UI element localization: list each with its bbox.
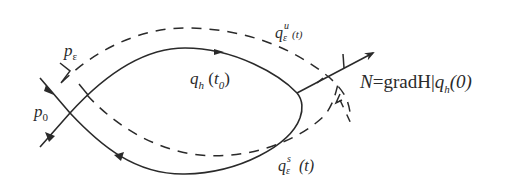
label-normal-q: q	[435, 71, 445, 92]
label-qu-arg: (t)	[292, 28, 302, 40]
label-normal-N: N	[360, 71, 373, 92]
label-qu-sub: ε	[283, 33, 287, 43]
label-q-h-t0: qh (t0)	[190, 70, 230, 87]
label-qh-t: t	[214, 69, 219, 88]
label-p0-sub: 0	[43, 111, 49, 123]
stable-manifold-dashed	[87, 84, 338, 156]
label-qs-sup: s	[287, 154, 291, 164]
arrow-icon-p0-in	[44, 85, 54, 95]
unstable-manifold-tail	[340, 100, 353, 128]
label-normal-eq: =gradH|	[373, 71, 435, 92]
label-q-unstable: quε(t)	[275, 25, 302, 41]
label-qh-sub: h	[199, 79, 205, 91]
label-qu-base: q	[275, 24, 283, 41]
label-p-eps-sub: ε	[73, 50, 78, 62]
label-qh-open: (	[204, 69, 214, 88]
label-qh-t-sub: 0	[219, 79, 225, 91]
arrow-icon-upper-flow	[214, 49, 224, 55]
diagram-canvas: pε p0 qh (t0) quε(t) qsε (t) N=gradH|qh(…	[0, 0, 516, 191]
homoclinic-orbit-lower	[40, 78, 300, 174]
label-qh-base: q	[190, 69, 199, 88]
label-normal-vector: N=gradH|qh(0)	[360, 72, 472, 91]
label-qs-arg: (t)	[295, 157, 314, 174]
label-qs-sub: ε	[286, 166, 290, 176]
label-p-0: p0	[34, 103, 48, 120]
label-qs-base: q	[278, 157, 286, 174]
diagram-svg	[0, 0, 516, 191]
p-eps-tick-right	[79, 84, 88, 95]
label-normal-sub: h	[444, 83, 450, 95]
label-qh-close: )	[224, 69, 230, 88]
homoclinic-orbit-upper	[40, 48, 302, 147]
normal-tick-2	[343, 54, 344, 68]
label-qs-stack: sε	[286, 161, 295, 171]
label-p-eps: pε	[64, 42, 77, 59]
label-q-stable: qsε (t)	[278, 158, 314, 174]
label-p-eps-base: p	[64, 41, 73, 60]
label-normal-arg: (0)	[450, 71, 472, 92]
label-qu-sup: u	[284, 21, 289, 31]
label-qu-stack: uε	[283, 28, 292, 38]
label-p0-base: p	[34, 102, 43, 121]
